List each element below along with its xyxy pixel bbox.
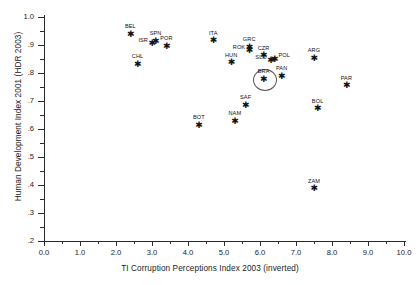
point-label: POL bbox=[278, 52, 290, 58]
x-tick-minor bbox=[170, 241, 171, 244]
scatter-chart-figure: Human Development Index 2001 (HDR 2003) … bbox=[0, 0, 420, 285]
x-axis-title: TI Corruption Perceptions Index 2003 (in… bbox=[0, 264, 420, 273]
point-label: ZAM bbox=[308, 178, 320, 184]
asterisk-marker: ✱ bbox=[278, 72, 285, 81]
x-tick bbox=[404, 241, 405, 246]
y-tick-label: .3 bbox=[0, 208, 34, 217]
y-tick-label: .7 bbox=[0, 96, 34, 105]
point-label: BEL bbox=[125, 23, 136, 29]
x-tick bbox=[44, 241, 45, 246]
asterisk-marker: ✱ bbox=[246, 46, 253, 55]
y-tick-label: .5 bbox=[0, 152, 34, 161]
asterisk-marker: ✱ bbox=[314, 104, 321, 113]
asterisk-marker: ✱ bbox=[127, 30, 134, 39]
plot-area: ✱BEL✱CHL✱ISR✱SPN✱POR✱BOT✱ITA✱NAM✱HUN✱SAF… bbox=[44, 17, 404, 241]
y-tick-label: 1.0 bbox=[0, 12, 34, 21]
point-label: BOL bbox=[312, 98, 324, 104]
x-tick bbox=[116, 241, 117, 246]
point-label: GRC bbox=[243, 36, 256, 42]
x-tick-minor bbox=[314, 241, 315, 244]
asterisk-marker: ✱ bbox=[267, 56, 274, 65]
asterisk-marker: ✱ bbox=[210, 36, 217, 45]
point-label: PAN bbox=[276, 65, 287, 71]
x-tick bbox=[80, 241, 81, 246]
x-tick-label: 4.0 bbox=[173, 248, 203, 257]
asterisk-marker: ✱ bbox=[343, 81, 350, 90]
y-tick-label: .8 bbox=[0, 68, 34, 77]
x-tick-label: 3.0 bbox=[137, 248, 167, 257]
asterisk-marker: ✱ bbox=[311, 184, 318, 193]
x-tick bbox=[368, 241, 369, 246]
x-tick bbox=[260, 241, 261, 246]
y-tick-label: .6 bbox=[0, 124, 34, 133]
x-tick-minor bbox=[278, 241, 279, 244]
asterisk-marker: ✱ bbox=[231, 117, 238, 126]
x-tick-minor bbox=[62, 241, 63, 244]
point-label: HUN bbox=[225, 52, 237, 58]
x-tick-label: 7.0 bbox=[281, 248, 311, 257]
point-label: POR bbox=[160, 35, 172, 41]
x-tick-label: 8.0 bbox=[317, 248, 347, 257]
asterisk-marker: ✱ bbox=[260, 75, 267, 84]
x-tick-minor bbox=[386, 241, 387, 244]
point-label: ARG bbox=[308, 47, 320, 53]
asterisk-marker: ✱ bbox=[163, 42, 170, 51]
y-tick-label: .4 bbox=[0, 180, 34, 189]
point-label: CZR bbox=[258, 45, 270, 51]
x-tick-minor bbox=[350, 241, 351, 244]
x-tick-label: 5.0 bbox=[209, 248, 239, 257]
x-tick bbox=[296, 241, 297, 246]
x-tick-minor bbox=[134, 241, 135, 244]
x-tick bbox=[224, 241, 225, 246]
x-tick bbox=[152, 241, 153, 246]
point-label: PAR bbox=[341, 75, 352, 81]
point-label: ITA bbox=[209, 30, 218, 36]
x-tick-label: 2.0 bbox=[101, 248, 131, 257]
x-tick-label: 1.0 bbox=[65, 248, 95, 257]
point-label: SLO bbox=[255, 54, 267, 60]
x-tick-label: 10.0 bbox=[389, 248, 419, 257]
asterisk-marker: ✱ bbox=[311, 54, 318, 63]
point-label: SAF bbox=[240, 94, 251, 100]
x-tick-label: 6.0 bbox=[245, 248, 275, 257]
x-tick-label: 0.0 bbox=[29, 248, 59, 257]
point-label: ROK bbox=[233, 44, 245, 50]
point-label: BOT bbox=[193, 114, 205, 120]
x-tick bbox=[188, 241, 189, 246]
x-tick-label: 9.0 bbox=[353, 248, 383, 257]
x-tick-minor bbox=[242, 241, 243, 244]
asterisk-marker: ✱ bbox=[152, 37, 159, 46]
point-label: ISR bbox=[138, 37, 148, 43]
asterisk-marker: ✱ bbox=[228, 58, 235, 67]
point-label: BRA bbox=[258, 68, 270, 74]
point-label: NAM bbox=[228, 110, 241, 116]
asterisk-marker: ✱ bbox=[195, 121, 202, 130]
y-tick-label: .2 bbox=[0, 236, 34, 245]
y-tick-label: .9 bbox=[0, 40, 34, 49]
x-tick bbox=[332, 241, 333, 246]
asterisk-marker: ✱ bbox=[134, 60, 141, 69]
asterisk-marker: ✱ bbox=[242, 101, 249, 110]
x-tick-minor bbox=[98, 241, 99, 244]
x-tick-minor bbox=[206, 241, 207, 244]
point-label: CHL bbox=[132, 53, 144, 59]
